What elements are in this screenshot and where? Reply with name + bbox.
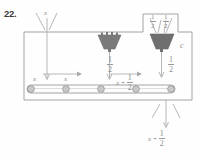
input-label-x: x: [44, 10, 47, 17]
belt-label-first-x: x: [33, 76, 36, 83]
fraction-numerator: 1: [127, 74, 133, 84]
fraction-numerator: 1: [163, 14, 169, 23]
hopper-right-fraction-label: 1 2: [163, 14, 169, 30]
fraction-numerator: 1: [107, 56, 113, 66]
fraction-denominator: 2: [150, 22, 156, 30]
input-arrow: [44, 18, 49, 80]
fraction-numerator: 1: [168, 56, 174, 66]
fraction-denominator: 2: [163, 22, 169, 30]
output-arrow: [163, 100, 168, 128]
belt-label-sum: x + 1 2: [116, 74, 133, 92]
output-variable: x: [148, 136, 151, 143]
function-machine-diagram: [0, 0, 201, 155]
output-plus: +: [153, 136, 158, 143]
worksheet-page: 22.: [0, 0, 201, 155]
right-drop-fraction-label: 1 2: [168, 56, 174, 74]
fraction-denominator: 2: [168, 65, 174, 74]
machine-side-label-c: c: [180, 42, 184, 50]
belt-sum-plus: +: [121, 80, 126, 87]
output-label: x + 1 2: [148, 130, 165, 148]
fraction-denominator: 2: [127, 83, 133, 92]
middle-drop-fraction-label: 1 2: [107, 56, 113, 74]
fraction-numerator: 1: [159, 130, 165, 140]
belt-sum-variable: x: [116, 80, 119, 87]
fraction-denominator: 2: [107, 65, 113, 74]
right-drop-arrow: [159, 52, 164, 78]
fraction-denominator: 2: [159, 139, 165, 148]
belt-label-second-x: x: [64, 76, 67, 83]
right-hopper-icon: [150, 34, 174, 52]
fraction-numerator: 1: [150, 14, 156, 23]
hopper-left-fraction-label: 1 2: [150, 14, 156, 30]
middle-hopper-icon: [98, 32, 121, 52]
